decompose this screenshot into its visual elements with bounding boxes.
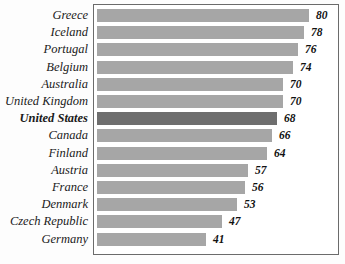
bar-row: Canada66 bbox=[0, 127, 345, 144]
bar-highlight bbox=[97, 112, 277, 125]
bar bbox=[97, 215, 222, 228]
bar bbox=[97, 61, 293, 74]
bar-row: Iceland78 bbox=[0, 24, 345, 41]
bar bbox=[97, 95, 283, 108]
value-label: 57 bbox=[255, 162, 267, 179]
value-label: 78 bbox=[311, 24, 323, 41]
bar bbox=[97, 233, 206, 246]
value-label: 68 bbox=[284, 110, 296, 127]
category-label: Denmark bbox=[0, 196, 88, 213]
bar bbox=[97, 43, 298, 56]
bar bbox=[97, 78, 283, 91]
bar bbox=[97, 9, 309, 22]
bar-row: Finland64 bbox=[0, 145, 345, 162]
bar-chart: Greece80Iceland78Portugal76Belgium74Aust… bbox=[0, 0, 345, 264]
value-label: 56 bbox=[252, 179, 264, 196]
bar bbox=[97, 198, 237, 211]
category-label: Greece bbox=[0, 7, 88, 24]
bar-row: Austria57 bbox=[0, 162, 345, 179]
value-label: 70 bbox=[290, 76, 302, 93]
bar-row: Greece80 bbox=[0, 7, 345, 24]
value-label: 80 bbox=[316, 7, 328, 24]
value-label: 70 bbox=[290, 93, 302, 110]
value-label: 41 bbox=[213, 231, 225, 248]
bar-row: Czech Republic47 bbox=[0, 213, 345, 230]
bar-row: United Kingdom70 bbox=[0, 93, 345, 110]
bar bbox=[97, 181, 245, 194]
category-label: Iceland bbox=[0, 24, 88, 41]
category-label: Australia bbox=[0, 76, 88, 93]
category-label: Germany bbox=[0, 231, 88, 248]
value-label: 64 bbox=[274, 145, 286, 162]
bar-row: Australia70 bbox=[0, 76, 345, 93]
bar-row: France56 bbox=[0, 179, 345, 196]
category-label: Finland bbox=[0, 145, 88, 162]
bar bbox=[97, 26, 304, 39]
category-label: United Kingdom bbox=[0, 93, 88, 110]
value-label: 47 bbox=[229, 213, 241, 230]
bar-row: Germany41 bbox=[0, 231, 345, 248]
category-label: Belgium bbox=[0, 59, 88, 76]
value-label: 53 bbox=[244, 196, 256, 213]
bar-row: United States68 bbox=[0, 110, 345, 127]
value-label: 76 bbox=[305, 41, 317, 58]
bar-row: Denmark53 bbox=[0, 196, 345, 213]
value-label: 74 bbox=[300, 59, 312, 76]
bar bbox=[97, 147, 267, 160]
category-label: Canada bbox=[0, 127, 88, 144]
category-label: France bbox=[0, 179, 88, 196]
category-label: Austria bbox=[0, 162, 88, 179]
bar bbox=[97, 129, 272, 142]
category-label: Czech Republic bbox=[0, 213, 88, 230]
bar-row: Belgium74 bbox=[0, 59, 345, 76]
bar-row: Portugal76 bbox=[0, 41, 345, 58]
bar bbox=[97, 164, 248, 177]
value-label: 66 bbox=[279, 127, 291, 144]
category-label: Portugal bbox=[0, 41, 88, 58]
category-label: United States bbox=[0, 110, 88, 127]
